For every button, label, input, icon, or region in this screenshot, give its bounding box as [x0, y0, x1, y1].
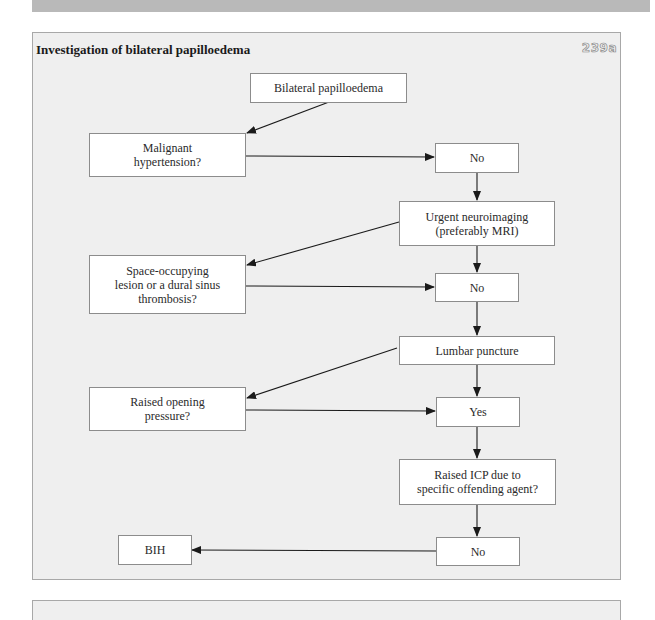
node-malignant-hypertension: Malignant hypertension? — [89, 133, 246, 177]
node-label: Space-occupying lesion or a dural sinus … — [115, 264, 220, 306]
node-no-1: No — [435, 143, 519, 173]
node-space-occupying-lesion: Space-occupying lesion or a dural sinus … — [89, 255, 246, 314]
node-raised-opening-pressure: Raised opening pressure? — [89, 387, 246, 431]
node-no-3: No — [436, 537, 520, 566]
node-lumbar-puncture: Lumbar puncture — [399, 336, 555, 365]
node-label: Lumbar puncture — [436, 344, 519, 358]
node-bih: BIH — [118, 535, 192, 565]
node-label: Bilateral papilloedema — [274, 81, 383, 95]
node-bilateral-papilloedema: Bilateral papilloedema — [250, 73, 407, 103]
node-yes: Yes — [436, 397, 520, 427]
top-decorative-strip — [32, 0, 650, 12]
node-label: Malignant hypertension? — [134, 141, 201, 169]
node-label: Raised ICP due to specific offending age… — [417, 468, 538, 496]
node-urgent-neuroimaging: Urgent neuroimaging (preferably MRI) — [399, 201, 555, 246]
node-label: No — [470, 151, 485, 165]
node-label: Yes — [469, 405, 486, 419]
node-raised-icp: Raised ICP due to specific offending age… — [399, 459, 556, 505]
node-label: BIH — [145, 543, 166, 557]
node-no-2: No — [435, 273, 519, 302]
figure-number: 239a — [582, 41, 617, 55]
node-label: No — [471, 545, 486, 559]
node-label: Raised opening pressure? — [130, 395, 204, 423]
figure-title: Investigation of bilateral papilloedema — [36, 42, 250, 58]
node-label: No — [470, 281, 485, 295]
node-label: Urgent neuroimaging (preferably MRI) — [426, 210, 529, 238]
next-figure-panel — [32, 600, 621, 620]
